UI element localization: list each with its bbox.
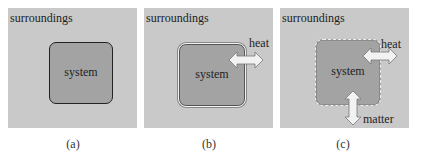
panel-b-surroundings: surroundings system heat [144, 8, 273, 128]
caption-c: (c) [323, 137, 363, 152]
panel-a-surroundings: surroundings system [8, 8, 137, 128]
surroundings-label: surroundings [146, 11, 209, 26]
matter-label: matter [363, 112, 394, 127]
heat-label: heat [381, 37, 401, 52]
surroundings-label: surroundings [282, 11, 345, 26]
system-label: system [316, 64, 380, 79]
panel-c-surroundings: surroundings system heat matter [280, 8, 409, 128]
heat-label: heat [249, 36, 269, 51]
surroundings-label: surroundings [10, 11, 73, 26]
matter-double-arrow-icon [345, 91, 361, 125]
system-label: system [50, 65, 112, 80]
caption-b: (b) [189, 137, 229, 152]
heat-double-arrow-icon [229, 52, 263, 68]
isolated-system-box: system [49, 42, 113, 104]
system-label: system [180, 67, 244, 82]
caption-a: (a) [53, 137, 93, 152]
